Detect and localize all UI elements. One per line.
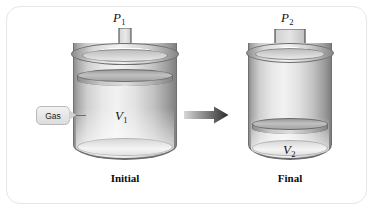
volume-label-final: V2 — [283, 142, 295, 158]
cylinder-initial — [73, 43, 177, 160]
gas-callout-leader — [76, 115, 86, 116]
pressure-label-final: P2 — [281, 10, 293, 26]
volume-subscript-initial: 1 — [123, 115, 127, 125]
cylinder-rim-inner-final — [255, 48, 326, 60]
volume-subscript-final: 2 — [291, 149, 295, 159]
pressure-label-initial: P1 — [113, 10, 125, 26]
state-label-initial: Initial — [85, 172, 165, 184]
volume-symbol-final: V — [283, 142, 291, 157]
piston-initial — [77, 69, 173, 86]
gas-callout-label: Gas — [45, 111, 61, 121]
gas-callout: Gas — [36, 106, 70, 125]
cylinder-rim-inner-initial — [82, 49, 169, 62]
pressure-symbol-initial: P — [113, 10, 121, 25]
gas-callout-pointer — [69, 110, 76, 120]
pressure-subscript-final: 2 — [289, 17, 293, 27]
cylinder-rim-initial — [71, 43, 179, 65]
pressure-subscript-initial: 1 — [121, 17, 125, 27]
volume-label-initial: V1 — [115, 108, 127, 124]
transition-arrow — [184, 106, 229, 124]
gas-compression-figure: P1 — [0, 0, 375, 212]
pressure-symbol-final: P — [281, 10, 289, 25]
cylinder-rim-final — [246, 43, 334, 63]
cylinder-floor-initial — [77, 138, 173, 156]
volume-symbol-initial: V — [115, 108, 123, 123]
state-label-final: Final — [250, 172, 330, 184]
piston-final — [252, 118, 328, 134]
